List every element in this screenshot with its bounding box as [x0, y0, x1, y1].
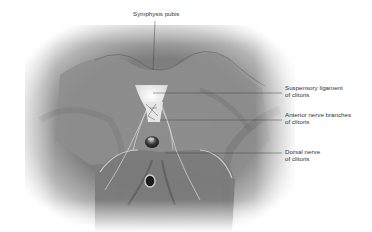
label-line: Anterior nerve branches: [285, 111, 351, 118]
anterior-nerve-branches: [145, 102, 163, 122]
label-line: Dorsal nerve: [285, 148, 320, 155]
label-symphysis-pubis: Symphysis pubis: [133, 10, 179, 17]
label-line: Symphysis pubis: [133, 10, 179, 17]
label-dorsal-nerve: Dorsal nerve of clitoris: [285, 148, 320, 162]
label-line: of clitoris: [285, 91, 343, 98]
label-anterior-nerve-branches: Anterior nerve branches of clitoris: [285, 111, 351, 125]
label-line: Suspensory ligament: [285, 84, 343, 91]
label-suspensory-ligament: Suspensory ligament of clitoris: [285, 84, 343, 98]
label-line: of clitoris: [285, 118, 351, 125]
label-line: of clitoris: [285, 155, 320, 162]
vaginal-opening: [145, 175, 155, 187]
